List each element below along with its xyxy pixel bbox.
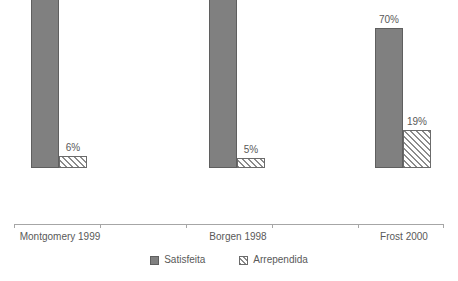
bar-value-label: 5%: [244, 144, 258, 156]
bar-arrependida-borgen-1998[interactable]: 5%: [237, 158, 265, 168]
bar-chart: 94% 6% 95% 5% 70%: [0, 0, 458, 281]
solid-gray-swatch-icon: [150, 256, 159, 265]
bar-pair: 94% 6%: [31, 0, 87, 168]
bar-satisfeita-frost-2000[interactable]: 70%: [375, 28, 403, 168]
legend-item-arrependida[interactable]: Arrependida: [239, 254, 307, 266]
bar-pair: 70% 19%: [375, 28, 431, 168]
legend-item-satisfeita[interactable]: Satisfeita: [150, 254, 205, 266]
x-axis-label-montgomery-1999: Montgomery 1999: [20, 231, 101, 243]
bar-satisfeita-borgen-1998[interactable]: 95%: [209, 0, 237, 168]
plot-area: 94% 6% 95% 5% 70%: [0, 0, 458, 225]
bar-arrependida-frost-2000[interactable]: 19%: [403, 130, 431, 168]
bar-value-label: 19%: [407, 116, 427, 128]
bar-pair: 95% 5%: [209, 0, 265, 168]
legend-label: Arrependida: [253, 254, 307, 266]
bar-value-label: 70%: [379, 14, 399, 26]
x-axis-line: [14, 224, 444, 225]
axis-tick: [443, 224, 444, 228]
chart-legend: Satisfeita Arrependida: [0, 254, 458, 266]
axis-tick: [358, 224, 359, 228]
bar-satisfeita-montgomery-1999[interactable]: 94%: [31, 0, 59, 168]
axis-tick: [14, 224, 15, 228]
bar-arrependida-montgomery-1999[interactable]: 6%: [59, 156, 87, 168]
x-axis-label-borgen-1998: Borgen 1998: [209, 231, 266, 243]
axis-tick: [186, 224, 187, 228]
axis-tick: [272, 224, 273, 228]
axis-tick: [100, 224, 101, 228]
legend-label: Satisfeita: [164, 254, 205, 266]
hatched-swatch-icon: [239, 256, 248, 265]
x-axis-label-frost-2000: Frost 2000: [380, 231, 428, 243]
bar-value-label: 6%: [66, 142, 80, 154]
